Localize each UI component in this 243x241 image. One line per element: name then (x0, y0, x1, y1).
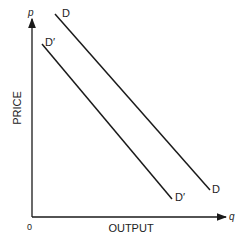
origin-label: 0 (27, 222, 32, 232)
demand-diagram: p q 0 PRICE OUTPUT D D D′ D′ (0, 0, 243, 241)
demand-curve-d (55, 14, 210, 190)
y-axis-label: PRICE (11, 91, 23, 125)
curve-d-label-bottom: D (212, 183, 220, 195)
demand-curve-d-prime (42, 44, 172, 199)
x-axis-symbol: q (229, 211, 235, 222)
y-axis-symbol: p (27, 7, 34, 18)
curve-d-prime-label-top: D′ (45, 36, 55, 48)
x-axis-label: OUTPUT (108, 222, 154, 234)
curve-d-prime-label-bottom: D′ (175, 191, 185, 203)
curve-d-label-top: D (62, 7, 70, 19)
